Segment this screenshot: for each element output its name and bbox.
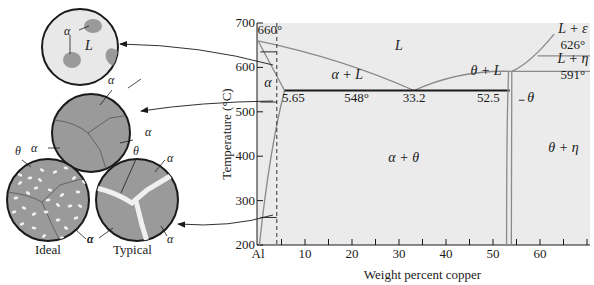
region-label-liquid: L	[394, 38, 403, 53]
label-alpha: α	[167, 151, 174, 165]
annotation-eutectic-temperature: 548°	[344, 90, 369, 105]
annotation-melting-point-al: 660°	[257, 22, 282, 37]
annotation-eutectic-composition: 33.2	[403, 90, 426, 105]
x-tick-label: Al	[252, 246, 265, 261]
alpha-nucleus	[63, 52, 81, 68]
label-theta: θ	[133, 144, 139, 158]
region-label-alpha-plus-liquid: α + L	[332, 67, 364, 82]
x-tick-label: 50	[487, 246, 500, 261]
region-label-liquid-plus-epsilon: L + ε	[557, 21, 588, 36]
annotation-peritectic-591: 591°	[561, 67, 586, 82]
x-tick-label: 20	[346, 246, 359, 261]
region-label-liquid-plus-eta: L + η	[556, 51, 588, 66]
x-tick-label: 40	[440, 246, 453, 261]
x-tick-label: 60	[534, 246, 547, 261]
label-alpha: α	[145, 125, 152, 139]
annotation-alpha-solubility-limit: 5.65	[282, 90, 305, 105]
alpha-nucleus	[84, 19, 102, 33]
region-label-theta: θ	[527, 90, 534, 105]
label-alpha: α	[167, 232, 174, 246]
x-tick-label: 10	[299, 246, 312, 261]
label-alpha: α	[64, 24, 71, 38]
region-label-theta-plus-liquid: θ + L	[470, 63, 501, 78]
label-liquid: L	[84, 38, 93, 53]
y-tick-label: 400	[236, 148, 256, 163]
label-alpha: α	[31, 141, 38, 155]
y-tick-label: 700	[236, 15, 256, 30]
x-axis-title: Weight percent copper	[364, 267, 482, 282]
y-tick-label: 600	[236, 59, 256, 74]
region-label-alpha: α	[264, 75, 272, 90]
y-tick-label: 500	[236, 104, 256, 119]
region-label-theta-plus-eta: θ + η	[548, 140, 578, 155]
annotation-theta-composition: 52.5	[477, 90, 500, 105]
label-alpha: α	[87, 232, 94, 246]
al-cu-phase-diagram-figure: 200300400500600700Al102030405060Weight p…	[0, 0, 594, 285]
y-tick-label: 300	[236, 193, 256, 208]
annotation-peritectic-626: 626°	[561, 37, 586, 52]
label-theta: θ	[15, 144, 21, 158]
label-alpha: α	[108, 73, 115, 87]
x-tick-label: 30	[393, 246, 406, 261]
region-label-alpha-plus-theta: α + θ	[388, 150, 419, 165]
caption-ideal: Ideal	[35, 242, 61, 257]
caption-typical: Typical	[113, 242, 152, 257]
